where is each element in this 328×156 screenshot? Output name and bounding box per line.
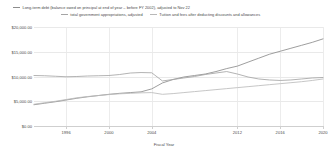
x-axis-tick-label: 2000 xyxy=(104,130,113,135)
y-axis-tick-label: $10,000.00 xyxy=(12,74,33,79)
x-axis-tick-label: 2012 xyxy=(233,130,242,135)
y-axis-tick-label: $0.00 xyxy=(22,124,32,129)
legend-dash-icon xyxy=(61,14,68,15)
plot-area xyxy=(34,27,323,126)
x-axis-tick-label: 1996 xyxy=(62,130,71,135)
series-line-0 xyxy=(34,39,323,105)
legend-dash-icon xyxy=(13,7,20,8)
legend-item-debt[interactable]: Long-term debt (balance owed on principa… xyxy=(13,4,190,11)
x-axis-tick-label: 2004 xyxy=(147,130,156,135)
legend-label-debt: Long-term debt (balance owed on principa… xyxy=(23,4,190,11)
x-axis-tick-mark xyxy=(66,126,67,129)
legend-item-tuition[interactable]: Tuition and fees after deducting discoun… xyxy=(150,11,260,18)
x-axis-tick-mark xyxy=(323,126,324,129)
gridline-vertical xyxy=(323,27,324,126)
series-line-1 xyxy=(34,72,323,81)
series-line-2 xyxy=(34,79,323,104)
chart-container: Long-term debt (balance owed on principa… xyxy=(0,0,328,156)
series-layer xyxy=(34,27,323,126)
legend-row-2: total government appropriations, adjuste… xyxy=(0,11,328,18)
y-axis-labels: $20,000.00$15,000.00$10,000.00$5,000.00$… xyxy=(0,27,32,126)
chart-legend: Long-term debt (balance owed on principa… xyxy=(0,4,328,18)
y-axis-tick-label: $15,000.00 xyxy=(12,49,33,54)
legend-dash-icon xyxy=(150,14,157,15)
legend-row-1: Long-term debt (balance owed on principa… xyxy=(0,4,328,11)
x-axis-tick-mark xyxy=(152,126,153,129)
x-axis-tick-mark xyxy=(109,126,110,129)
legend-label-tuition: Tuition and fees after deducting discoun… xyxy=(159,11,260,18)
x-axis-title: Fiscal Year xyxy=(0,142,328,147)
y-axis-tick-label: $20,000.00 xyxy=(12,25,33,30)
legend-item-appropriations[interactable]: total government appropriations, adjuste… xyxy=(61,11,143,18)
x-axis-tick-label: 2016 xyxy=(276,130,285,135)
legend-label-appropriations: total government appropriations, adjuste… xyxy=(70,11,142,18)
x-axis-tick-mark xyxy=(280,126,281,129)
x-axis-tick-label: 2020 xyxy=(318,130,327,135)
y-axis-tick-label: $5,000.00 xyxy=(14,99,32,104)
x-axis-tick-mark xyxy=(237,126,238,129)
